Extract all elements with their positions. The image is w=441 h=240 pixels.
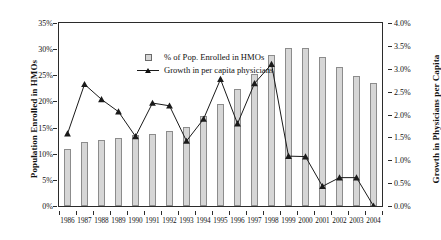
x-axis-tick-mark (365, 211, 366, 215)
plot-area: % of Pop. Enrolled in HMOs Growth in per… (58, 22, 383, 207)
x-axis-label-1998: 1998 (264, 217, 278, 225)
y-right-tick-label: 0.5% (394, 179, 411, 188)
y-right-tick-mark (388, 46, 392, 47)
x-axis-label-1991: 1991 (145, 217, 159, 225)
y-left-tick-mark (53, 154, 57, 155)
y-right-tick-mark (388, 69, 392, 70)
x-axis-tick-mark (314, 211, 315, 215)
x-axis-label-2000: 2000 (298, 217, 312, 225)
x-axis-tick-mark (178, 211, 179, 215)
y-left-tick-label: 35% (38, 19, 53, 28)
x-axis-tick-mark (348, 211, 349, 215)
y-right-tick-label: 3.0% (394, 64, 411, 73)
y-left-tick-mark (53, 75, 57, 76)
x-axis-tick-mark (280, 211, 281, 215)
x-axis-label-1997: 1997 (247, 217, 261, 225)
line-marker-1989 (115, 108, 122, 114)
y-right-tick-label: 3.5% (394, 41, 411, 50)
y-left-tick-label: 30% (38, 45, 53, 54)
line-marker-1990 (132, 133, 139, 139)
x-axis-tick-mark (59, 211, 60, 215)
line-marker-1991 (149, 100, 156, 106)
y-right-tick-mark (388, 92, 392, 93)
y-left-tick-mark (53, 128, 57, 129)
x-axis-label-2001: 2001 (315, 217, 329, 225)
x-axis-tick-mark (110, 211, 111, 215)
y-axis-left-ticks: 0%5%10%15%20%25%30%35% (0, 22, 53, 207)
y-right-tick-mark (388, 23, 392, 24)
x-axis-label-2002: 2002 (332, 217, 346, 225)
y-left-tick-mark (53, 101, 57, 102)
x-axis-label-1993: 1993 (179, 217, 193, 225)
physician-growth-line (68, 64, 374, 206)
line-marker-1986 (64, 130, 71, 136)
x-axis-tick-mark (195, 211, 196, 215)
y-left-tick-mark (53, 49, 57, 50)
x-axis-labels: 1986198719881989199019911992199319941995… (58, 211, 383, 227)
x-axis-tick-mark (246, 211, 247, 215)
y-right-tick-mark (388, 206, 392, 207)
x-axis-tick-mark (331, 211, 332, 215)
legend-label-physician-growth: Growth in per capita physicians (161, 64, 273, 77)
x-axis-label-1995: 1995 (213, 217, 227, 225)
x-axis-tick-mark (76, 211, 77, 215)
line-marker-2001 (319, 183, 326, 189)
x-axis-tick-mark (144, 211, 145, 215)
x-axis-tick-mark (382, 211, 383, 215)
y-axis-right-title: Growth in Physicians per Capita (431, 24, 441, 214)
x-axis-tick-mark (297, 211, 298, 215)
y-left-tick-mark (53, 23, 57, 24)
x-axis-tick-mark (229, 211, 230, 215)
y-left-tick-mark (53, 206, 57, 207)
y-right-tick-label: 2.0% (394, 110, 411, 119)
line-marker-1996 (234, 120, 241, 126)
y-left-tick-label: 0% (42, 202, 53, 211)
x-axis-label-2004: 2004 (366, 217, 380, 225)
legend-label-hmo-enrollment: % of Pop. Enrolled in HMOs (161, 51, 264, 64)
x-axis-label-1999: 1999 (281, 217, 295, 225)
x-axis-label-1990: 1990 (128, 217, 142, 225)
line-marker-1994 (200, 116, 207, 122)
x-axis-tick-mark (161, 211, 162, 215)
y-left-tick-mark (53, 180, 57, 181)
y-axis-right-ticks: 0.0%0.5%1.0%1.5%2.0%2.5%3.0%3.5%4.0% (388, 22, 428, 207)
x-axis-label-1992: 1992 (162, 217, 176, 225)
line-marker-2004 (370, 203, 377, 206)
y-right-tick-mark (388, 160, 392, 161)
y-right-tick-label: 0.0% (394, 202, 411, 211)
chart-legend: % of Pop. Enrolled in HMOs Growth in per… (135, 51, 273, 77)
x-axis-tick-mark (93, 211, 94, 215)
line-marker-1987 (81, 81, 88, 87)
x-axis-label-2003: 2003 (349, 217, 363, 225)
y-right-tick-label: 4.0% (394, 19, 411, 28)
x-axis-tick-mark (263, 211, 264, 215)
y-left-tick-label: 10% (38, 149, 53, 158)
x-axis-label-1987: 1987 (77, 217, 91, 225)
x-axis-label-1989: 1989 (111, 217, 125, 225)
x-axis-label-1996: 1996 (230, 217, 244, 225)
y-right-tick-label: 2.5% (394, 87, 411, 96)
x-axis-label-1986: 1986 (60, 217, 74, 225)
y-left-tick-label: 5% (42, 175, 53, 184)
x-axis-label-1994: 1994 (196, 217, 210, 225)
x-axis-tick-mark (127, 211, 128, 215)
y-left-tick-label: 15% (38, 123, 53, 132)
x-axis-label-1988: 1988 (94, 217, 108, 225)
y-left-tick-label: 20% (38, 97, 53, 106)
y-right-tick-label: 1.0% (394, 156, 411, 165)
y-right-tick-mark (388, 115, 392, 116)
y-left-tick-label: 25% (38, 71, 53, 80)
legend-item-physician-growth: Growth in per capita physicians (135, 64, 273, 77)
x-axis-tick-mark (212, 211, 213, 215)
legend-square-swatch-icon (135, 54, 161, 61)
y-right-tick-mark (388, 183, 392, 184)
legend-line-triangle-icon (135, 67, 161, 74)
legend-item-hmo-enrollment: % of Pop. Enrolled in HMOs (135, 51, 273, 64)
y-right-tick-label: 1.5% (394, 133, 411, 142)
y-right-tick-mark (388, 137, 392, 138)
